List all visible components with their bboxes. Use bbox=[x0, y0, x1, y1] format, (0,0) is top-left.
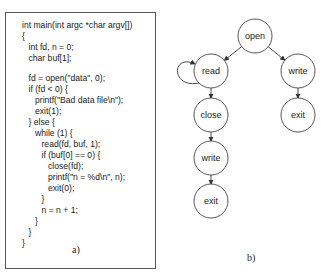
svg-text:write: write bbox=[287, 66, 307, 76]
svg-text:open: open bbox=[245, 31, 265, 41]
node-open: open bbox=[238, 19, 272, 53]
node-write_r: write bbox=[281, 54, 315, 88]
node-exit_l: exit bbox=[194, 184, 228, 218]
svg-text:read: read bbox=[202, 66, 220, 76]
svg-text:exit: exit bbox=[204, 196, 219, 206]
node-read: read bbox=[194, 54, 228, 88]
caption-b: b) bbox=[247, 252, 255, 263]
edge-open-write_r bbox=[268, 47, 285, 61]
node-exit_r: exit bbox=[281, 98, 315, 132]
state-graph: openreadwritecloseexitwriteexit bbox=[0, 0, 321, 275]
node-close: close bbox=[194, 98, 228, 132]
svg-text:exit: exit bbox=[291, 110, 306, 120]
svg-text:close: close bbox=[200, 110, 221, 120]
edge-open-read bbox=[224, 47, 241, 61]
svg-text:write: write bbox=[200, 153, 220, 163]
node-write_l: write bbox=[194, 141, 228, 175]
